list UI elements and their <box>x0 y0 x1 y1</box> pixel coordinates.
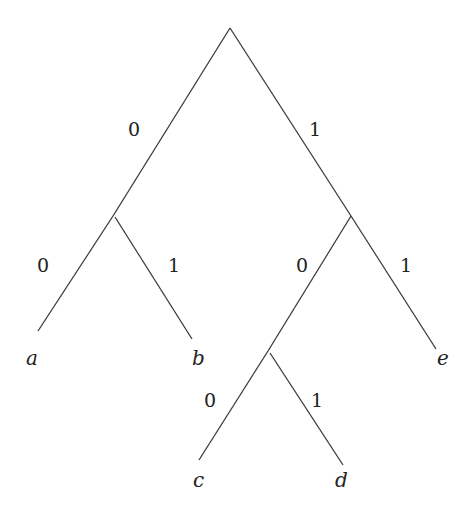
bit-label-root-left: 0 <box>128 118 140 140</box>
edge-root-right <box>230 28 351 216</box>
edge-right-to-inner <box>268 216 351 351</box>
edge-left-to-b <box>115 217 192 339</box>
leaf-label-a: a <box>26 346 38 370</box>
edge-left-to-a <box>38 216 113 331</box>
leaf-label-e: e <box>437 346 449 370</box>
code-tree-diagram: 0 1 0 1 0 1 0 1 a b e c d <box>0 0 471 509</box>
bit-label-left-b: 1 <box>168 254 180 276</box>
bit-label-right-e: 1 <box>400 254 412 276</box>
bit-label-root-right: 1 <box>309 118 321 140</box>
bit-label-left-a: 0 <box>37 254 49 276</box>
leaf-label-d: d <box>335 468 348 492</box>
edge-inner-to-d <box>270 353 343 465</box>
leaf-label-b: b <box>192 346 205 370</box>
bit-label-inner-d: 1 <box>311 389 323 411</box>
edge-right-to-e <box>351 216 436 349</box>
bit-label-right-inner: 0 <box>296 254 308 276</box>
bit-label-inner-c: 0 <box>204 389 216 411</box>
leaf-label-c: c <box>193 468 204 492</box>
